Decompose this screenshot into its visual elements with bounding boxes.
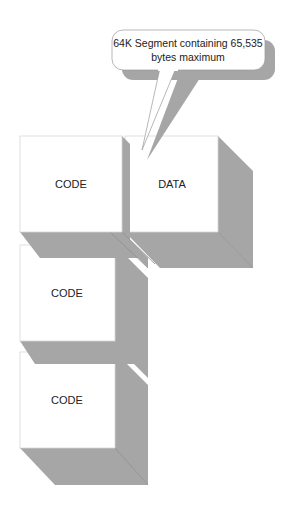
callout-line-1: 64K Segment containing 65,535 [113, 37, 263, 49]
callout-bubble [112, 30, 265, 70]
callout-line-2: bytes maximum [151, 51, 225, 63]
code-block-3-label: CODE [51, 394, 83, 406]
code-block-3: CODE [20, 352, 148, 485]
code-block-2: CODE [20, 245, 148, 378]
data-block-label: DATA [158, 178, 186, 190]
code-block-1-label: CODE [55, 178, 87, 190]
code-block-2-label: CODE [51, 287, 83, 299]
data-block: DATA [125, 136, 253, 268]
segment-diagram: CODE CODE DATA CODE 64K Segment contain [0, 0, 291, 509]
